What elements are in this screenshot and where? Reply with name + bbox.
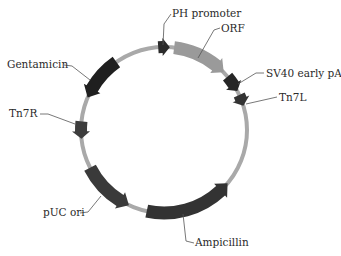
leader-line-tn7r <box>40 114 75 124</box>
feature-arrow-ph-promoter <box>158 38 170 56</box>
plasmid-map: PH promoterORFSV40 early pATn7LAmpicilli… <box>0 0 341 256</box>
leader-line-sv40-early-pa <box>238 73 264 84</box>
label-sv40-early-pa: SV40 early pA <box>266 67 341 79</box>
leader-line-ampicillin <box>183 214 194 243</box>
feature-arrows <box>72 38 249 219</box>
feature-arrow-gentamicin <box>84 57 120 98</box>
label-tn7l: Tn7L <box>279 91 306 103</box>
label-gentamicin: Gentamicin <box>7 58 68 70</box>
leader-line-tn7l <box>246 97 277 104</box>
feature-arrow-puc-ori <box>84 165 129 209</box>
feature-arrow-ampicillin <box>145 183 227 219</box>
label-orf: ORF <box>221 22 245 34</box>
plasmid-map-svg: PH promoterORFSV40 early pATn7LAmpicilli… <box>0 0 341 256</box>
label-tn7r: Tn7R <box>9 107 38 119</box>
label-ph-promoter: PH promoter <box>172 7 242 19</box>
feature-arrow-tn7r <box>72 121 90 139</box>
label-ampicillin: Ampicillin <box>194 236 249 248</box>
label-puc-ori: pUC ori <box>43 206 85 218</box>
